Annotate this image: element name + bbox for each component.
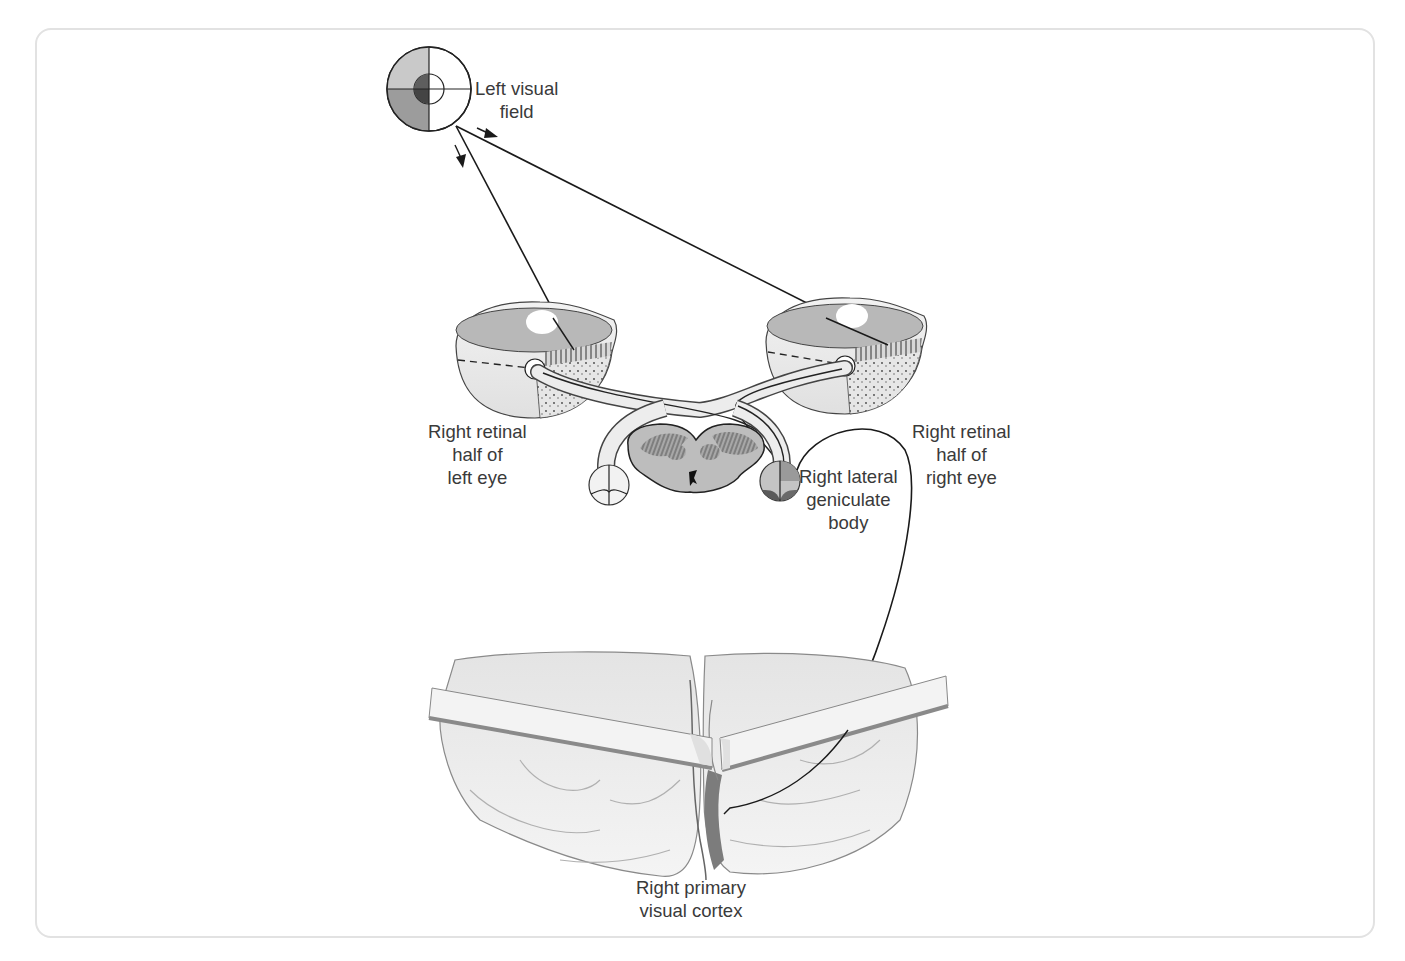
label-line: right eye — [912, 466, 1011, 489]
label-line: geniculate — [799, 488, 898, 511]
label-line: Left visual — [475, 77, 558, 100]
label-right-retinal-half-right-eye: Right retinal half of right eye — [912, 420, 1011, 489]
label-right-primary-visual-cortex: Right primary visual cortex — [636, 876, 746, 922]
label-left-visual-field: Left visual field — [475, 77, 558, 123]
arrow-icon — [455, 128, 498, 168]
label-line: left eye — [428, 466, 527, 489]
label-line: half of — [428, 443, 527, 466]
visual-field-circle — [387, 47, 471, 131]
occipital-lobes — [440, 652, 918, 880]
label-right-lateral-geniculate-body: Right lateral geniculate body — [799, 465, 898, 534]
label-line: half of — [912, 443, 1011, 466]
label-line: Right retinal — [428, 420, 527, 443]
visual-pathway-diagram — [0, 0, 1405, 961]
right-lgn — [760, 461, 800, 501]
label-line: body — [799, 511, 898, 534]
left-lgn — [589, 465, 629, 505]
label-line: Right lateral — [799, 465, 898, 488]
label-line: field — [475, 100, 558, 123]
label-line: Right retinal — [912, 420, 1011, 443]
midbrain-cross-section — [628, 424, 764, 492]
label-right-retinal-half-left-eye: Right retinal half of left eye — [428, 420, 527, 489]
right-eye — [766, 298, 927, 414]
label-line: Right primary — [636, 876, 746, 899]
label-line: visual cortex — [636, 899, 746, 922]
